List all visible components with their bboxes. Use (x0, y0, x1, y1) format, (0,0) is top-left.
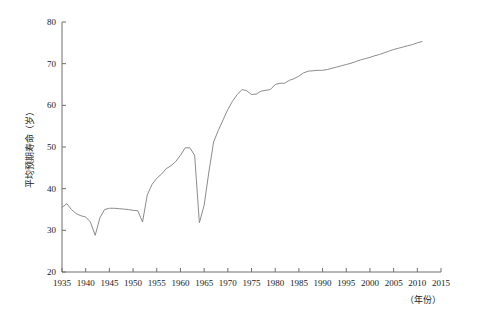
y-tick-label: 80 (47, 17, 57, 27)
x-tick-label: 2015 (432, 278, 451, 288)
x-tick-label: 1945 (100, 278, 119, 288)
x-tick-label: 1950 (124, 278, 143, 288)
x-tick-label: 1965 (195, 278, 214, 288)
x-tick-label: 1975 (243, 278, 262, 288)
y-axis-ticks (62, 22, 66, 272)
x-tick-label: 1960 (171, 278, 190, 288)
x-tick-label: 1970 (219, 278, 238, 288)
x-tick-label: 1990 (314, 278, 333, 288)
x-tick-label: 1935 (53, 278, 72, 288)
chart-container: 20304050607080 1935194019451950195519601… (0, 0, 479, 318)
y-tick-label: 30 (47, 225, 57, 235)
y-tick-label: 60 (47, 100, 57, 110)
x-tick-label: 2010 (408, 278, 427, 288)
x-tick-label: 1940 (77, 278, 96, 288)
life-expectancy-line-chart: 20304050607080 1935194019451950195519601… (0, 0, 479, 318)
x-axis-ticks (62, 268, 441, 272)
y-tick-label: 40 (47, 184, 57, 194)
x-tick-label: 2005 (385, 278, 404, 288)
x-tick-label: 1985 (290, 278, 309, 288)
y-axis-tick-labels: 20304050607080 (47, 17, 57, 277)
x-tick-label: 1980 (266, 278, 285, 288)
x-axis-title: （年份） (405, 294, 441, 305)
y-axis-title: 平均预期寿命（岁） (24, 107, 35, 188)
y-tick-label: 20 (47, 267, 57, 277)
x-tick-label: 1955 (148, 278, 167, 288)
y-tick-label: 50 (47, 142, 57, 152)
x-tick-label: 2000 (361, 278, 380, 288)
y-tick-label: 70 (47, 59, 57, 69)
data-series-line (62, 42, 422, 236)
x-tick-label: 1995 (337, 278, 356, 288)
x-axis-tick-labels: 1935194019451950195519601965197019751980… (53, 278, 451, 288)
